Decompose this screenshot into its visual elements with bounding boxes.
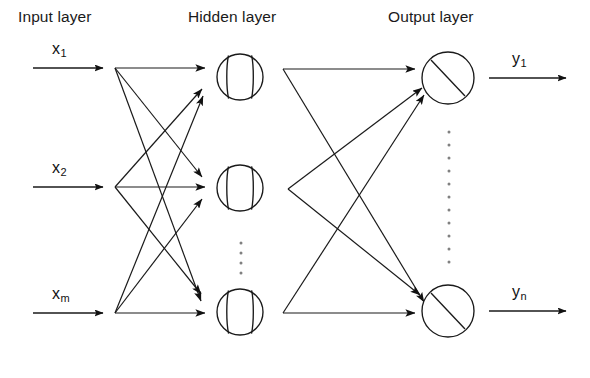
edge-h1-o2 — [283, 69, 424, 302]
output-neuron-2 — [422, 285, 474, 337]
hidden-layer-title: Hidden layer — [188, 8, 276, 26]
edge-h3-o1 — [283, 95, 424, 313]
input-label-x1-sub: 1 — [61, 47, 67, 59]
output-neurons-group — [422, 52, 474, 337]
edge-in2-h3 — [115, 187, 201, 294]
input-label-x2-sub: 2 — [61, 166, 67, 178]
output-label-y1-sub: 1 — [521, 57, 527, 69]
neural-network-diagram: Input layer Hidden layer Output layer x1… — [0, 0, 590, 378]
output-neuron-1 — [422, 52, 474, 104]
input-label-xm: xm — [52, 285, 69, 303]
output-layer-ellipsis — [448, 131, 451, 264]
output-label-yn: yn — [512, 283, 526, 301]
input-arrows-group — [33, 68, 103, 313]
hidden-neuron-3 — [217, 289, 263, 335]
input-label-xm-base: x — [52, 285, 60, 302]
input-layer-title: Input layer — [18, 8, 91, 26]
input-label-xm-sub: m — [61, 292, 70, 304]
output-label-y1: y1 — [512, 50, 526, 68]
input-to-hidden-edges — [115, 68, 205, 313]
input-label-x1: x1 — [52, 40, 66, 58]
hidden-neurons-group — [217, 54, 263, 335]
hidden-layer-ellipsis — [240, 242, 243, 275]
diagram-canvas — [0, 0, 590, 378]
input-label-x1-base: x — [52, 40, 60, 57]
edge-in1-h2 — [115, 68, 202, 177]
output-label-yn-sub: n — [521, 290, 527, 302]
hidden-to-output-edges — [283, 69, 424, 313]
edge-in3-h2 — [115, 199, 202, 313]
output-label-yn-base: y — [512, 283, 520, 300]
edge-in1-h3 — [115, 68, 201, 301]
output-label-y1-base: y — [512, 50, 520, 67]
hidden-neuron-2 — [217, 165, 263, 211]
input-label-x2: x2 — [52, 159, 66, 177]
output-arrows-group — [489, 78, 566, 311]
edge-h2-o1 — [288, 88, 422, 189]
hidden-neuron-1 — [217, 54, 263, 100]
output-layer-title: Output layer — [388, 8, 474, 26]
edge-h2-o2 — [288, 189, 420, 295]
input-label-x2-base: x — [52, 159, 60, 176]
